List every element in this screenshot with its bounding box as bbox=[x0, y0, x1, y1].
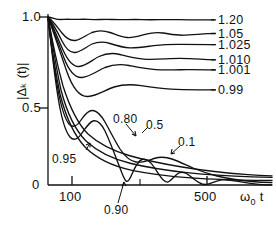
ytick-label-0: 0 bbox=[32, 177, 40, 192]
curve-label-1-025: 1.025 bbox=[218, 38, 251, 52]
curve-1-05 bbox=[48, 17, 215, 41]
ytick-label-1-0: 1.0 bbox=[22, 9, 41, 24]
x-axis-label-sub: 0 bbox=[250, 197, 255, 207]
y-axis-label: |Δₖ (t)| bbox=[14, 63, 29, 100]
xtick-label-500: 500 bbox=[194, 189, 217, 204]
arrowhead-0-90 bbox=[122, 182, 126, 187]
plateau-curves bbox=[48, 17, 215, 97]
curve-label-0-5: 0.5 bbox=[146, 118, 164, 132]
curve-label-1-001: 1.001 bbox=[218, 63, 251, 77]
x-axis-label-omega: ω bbox=[240, 189, 250, 204]
curve-label-0-99: 0.99 bbox=[218, 83, 244, 97]
curve-label-0-80: 0.80 bbox=[113, 112, 138, 126]
xtick-label-100: 100 bbox=[59, 189, 82, 204]
x-axis-label: ω0 t bbox=[240, 189, 264, 207]
curve-1-20 bbox=[48, 17, 214, 20]
x-axis-label-t: t bbox=[260, 189, 264, 204]
curve-label-1-20: 1.20 bbox=[218, 13, 244, 27]
curve-1-010 bbox=[48, 17, 215, 67]
curve-label-0-95: 0.95 bbox=[52, 152, 77, 166]
y-axis-ticks bbox=[39, 17, 48, 108]
curve-label-0-90: 0.90 bbox=[104, 203, 129, 217]
right-label-connectors bbox=[211, 20, 216, 90]
ytick-label-0-5: 0.5 bbox=[22, 100, 41, 115]
curve-label-0-1: 0.1 bbox=[178, 135, 196, 149]
